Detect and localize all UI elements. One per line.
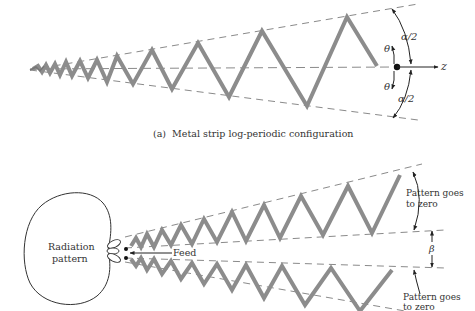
radiation-pattern-label-1: Radiation <box>48 241 95 252</box>
alpha-upper-label: α/2 <box>401 31 417 42</box>
figure-a-log-periodic-strip: z θ θ α/2 α/2 (a) Metal strip log-period… <box>30 4 447 139</box>
radiation-pattern-label-2: pattern <box>52 253 88 264</box>
metal-strip-zigzag <box>33 17 377 106</box>
lower-zero-note-1: Pattern goes <box>403 292 461 302</box>
lower-strip-zigzag <box>131 258 392 311</box>
feed-point-upper <box>124 247 128 251</box>
back-lobe-middle <box>107 248 119 254</box>
theta-upper-label: θ <box>384 43 390 54</box>
feed-point-lower <box>124 256 128 260</box>
upper-zero-note-2: to zero <box>406 199 438 209</box>
upper-zero-note-1: Pattern goes <box>406 188 464 198</box>
feed-label: Feed <box>173 247 196 258</box>
figure-a-caption: (a) Metal strip log-periodic configurati… <box>153 128 353 139</box>
z-axis-label: z <box>440 60 447 73</box>
lower-zero-arrow-icon <box>414 270 420 294</box>
lower-zero-note-2: to zero <box>403 302 435 311</box>
theta-upper-arc-icon <box>392 46 394 64</box>
theta-lower-arc-icon <box>392 71 394 89</box>
figure-b-bidirectional-log-periodic: Radiation pattern Feed Pattern goes to z… <box>24 164 464 311</box>
upper-strip-zigzag <box>131 175 400 247</box>
alpha-lower-label: α/2 <box>398 93 414 104</box>
theta-lower-label: θ <box>384 81 390 92</box>
log-periodic-antenna-figure: z θ θ α/2 α/2 (a) Metal strip log-period… <box>0 0 475 311</box>
beta-label: β <box>428 243 435 254</box>
